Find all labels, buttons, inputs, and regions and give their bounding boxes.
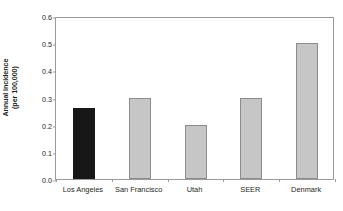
y-axis-tick-mark: [53, 126, 56, 127]
y-axis-tick-label: 0.2: [42, 123, 52, 130]
x-axis-tick-mark: [112, 179, 113, 182]
y-axis-tick-label: 0.4: [42, 69, 52, 76]
y-axis-tick-mark: [53, 99, 56, 100]
x-axis-labels: Los AngelesSan FranciscoUtahSEERDenmark: [55, 186, 334, 200]
y-axis-tick-label: 0.3: [42, 96, 52, 103]
y-axis-tick-label: 0.0: [42, 177, 52, 184]
x-axis-tick-mark: [279, 179, 280, 182]
bars-layer: [56, 18, 333, 179]
x-axis-tick-label: Denmark: [291, 186, 321, 193]
y-axis-tick-label: 0.1: [42, 150, 52, 157]
y-axis-tick-mark: [53, 72, 56, 73]
plot-area: 0.00.10.20.30.40.50.6: [55, 17, 334, 180]
bar-los-angeles: [73, 108, 95, 179]
x-axis-tick-mark: [168, 179, 169, 182]
y-axis-tick-label: 0.6: [42, 14, 52, 21]
bar-seer: [240, 98, 262, 180]
x-axis-tick-mark: [223, 179, 224, 182]
x-axis-tick-mark: [56, 179, 57, 182]
bar-chart: Annual incidence (per 100,000) 0.00.10.2…: [0, 0, 343, 211]
x-axis-tick-label: Los Angeles: [63, 186, 103, 193]
y-axis-tick-mark: [53, 18, 56, 19]
y-axis-tick-mark: [53, 153, 56, 154]
bar-denmark: [296, 43, 318, 179]
y-axis-tick-mark: [53, 45, 56, 46]
x-axis-tick-label: San Francisco: [115, 186, 162, 193]
bar-utah: [185, 125, 207, 179]
bar-san-francisco: [129, 98, 151, 180]
y-axis-title: Annual incidence (per 100,000): [0, 0, 22, 175]
x-axis-tick-label: SEER: [240, 186, 260, 193]
y-axis-tick-label: 0.5: [42, 42, 52, 49]
x-axis-tick-label: Utah: [187, 186, 203, 193]
x-axis-tick-mark: [335, 179, 336, 182]
y-axis-title-line-2: (per 100,000): [11, 59, 20, 117]
